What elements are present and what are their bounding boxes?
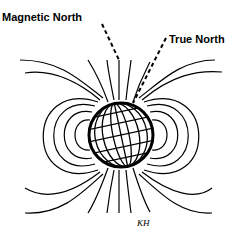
true-north-label: True North: [169, 33, 225, 45]
true-north-pointer: [133, 38, 166, 103]
artist-signature: KH: [136, 218, 150, 228]
magnetic-north-pointer: [102, 24, 119, 60]
magnetic-north-label: Magnetic North: [2, 11, 82, 23]
magnetic-field-diagram: Magnetic North True North KH: [0, 0, 247, 242]
earth-globe: [79, 93, 164, 176]
